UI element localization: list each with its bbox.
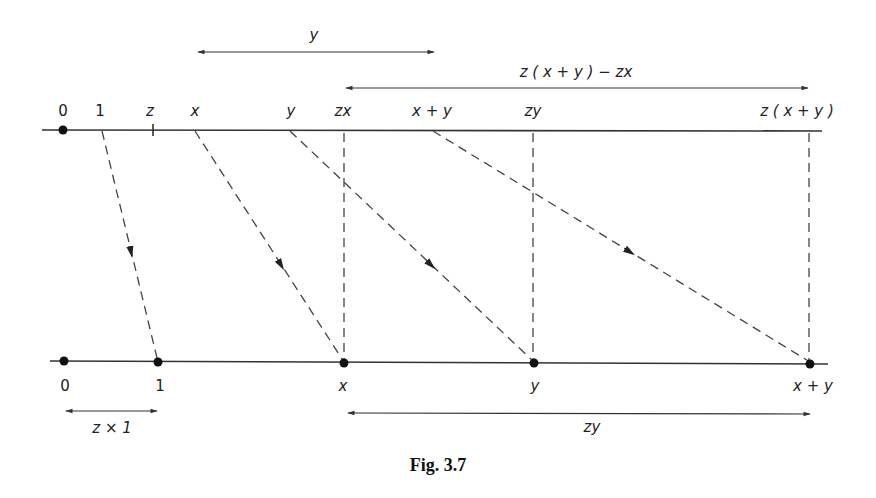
top-number-line: 0 1 z x y zx x + y zy z ( x + y ) xyxy=(42,102,834,136)
bottom-point-x-plus-y xyxy=(806,360,815,369)
arrowhead-icon xyxy=(426,260,431,265)
arrowhead-icon xyxy=(624,248,630,252)
bottom-label-y: y xyxy=(530,377,541,395)
measure-label-z1: z × 1 xyxy=(91,419,132,437)
top-label-x: x xyxy=(190,102,200,120)
bottom-label-x-plus-y: x + y xyxy=(792,377,834,395)
top-label-x-plus-y: x + y xyxy=(411,102,453,120)
top-point-0 xyxy=(59,126,68,135)
bottom-label-1: 1 xyxy=(155,377,165,395)
top-label-zy: zy xyxy=(524,102,543,120)
measure-arrow-z1: z × 1 xyxy=(66,411,157,437)
bottom-label-x: x xyxy=(338,377,348,395)
top-label-1: 1 xyxy=(95,102,105,120)
top-label-z: z xyxy=(145,102,155,120)
bottom-label-0: 0 xyxy=(60,377,70,395)
figure-caption: Fig. 3.7 xyxy=(410,455,467,475)
measure-arrow-zy: zy xyxy=(348,413,810,436)
map-x-to-zx xyxy=(195,131,344,362)
measure-arrow-diff: z ( x + y ) − zx xyxy=(346,63,808,88)
measure-label-diff: z ( x + y ) − zx xyxy=(519,63,633,81)
bottom-point-1 xyxy=(154,358,163,367)
top-label-zx: zx xyxy=(334,102,352,120)
map-y-to-zy xyxy=(290,131,534,362)
top-label-y: y xyxy=(286,102,297,120)
bottom-number-line: 0 1 x y x + y xyxy=(50,357,834,396)
measure-label-zy: zy xyxy=(583,418,602,436)
multiplication-diagram: y z ( x + y ) − zx 0 1 z x y zx x + y zy… xyxy=(0,0,876,498)
measure-arrow-y: y xyxy=(198,26,434,52)
mapping-lines xyxy=(102,131,810,362)
bottom-point-y xyxy=(530,359,539,368)
bottom-point-x xyxy=(340,359,349,368)
map-1-to-z xyxy=(102,131,158,362)
bottom-point-0 xyxy=(60,357,69,366)
measure-label-y: y xyxy=(309,26,320,44)
map-x-plus-y xyxy=(433,131,810,362)
top-label-z-x-plus-y: z ( x + y ) xyxy=(759,102,834,120)
top-label-0: 0 xyxy=(58,102,68,120)
